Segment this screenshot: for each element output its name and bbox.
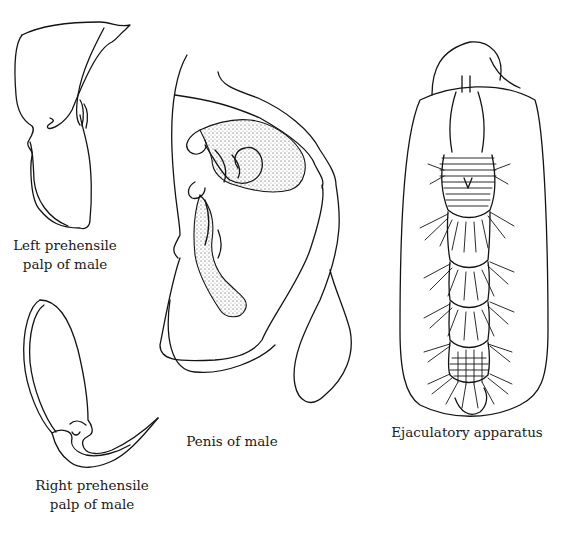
caption-penis: Penis of male xyxy=(180,432,284,451)
caption-left-palp: Left prehensile palp of male xyxy=(4,236,126,274)
left-palp-drawing xyxy=(15,22,130,229)
caption-line: palp of male xyxy=(30,495,154,514)
penis-drawing xyxy=(160,55,351,402)
caption-line: Penis of male xyxy=(180,432,284,451)
caption-ejaculatory: Ejaculatory apparatus xyxy=(370,423,564,442)
caption-line: palp of male xyxy=(4,255,126,274)
figure-plate: Left prehensile palp of male Right prehe… xyxy=(0,0,566,537)
caption-line: Left prehensile xyxy=(4,236,126,255)
right-palp-drawing xyxy=(24,300,158,467)
caption-line: Ejaculatory apparatus xyxy=(370,423,564,442)
ejaculatory-drawing xyxy=(400,42,548,416)
bristle-whorls xyxy=(420,164,514,408)
caption-line: Right prehensile xyxy=(30,476,154,495)
caption-right-palp: Right prehensile palp of male xyxy=(30,476,154,514)
